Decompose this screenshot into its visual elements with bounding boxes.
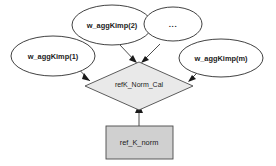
node-input-m[interactable]: w_aggKimp(m) [179,39,263,77]
arrowhead-inputm [188,75,196,82]
arrowhead-ellipsis [141,56,149,63]
diagram-svg: w_aggKimp(2) ... w_aggKimp(1) w_aggKimp(… [0,0,276,166]
node-label-input-ellipsis: ... [169,20,177,29]
edge-ellipsis-to-process [141,44,160,63]
node-label-input-2: w_aggKimp(2) [86,21,138,30]
node-process[interactable]: refK_Norm_Cal [85,62,193,110]
node-label-input-m: w_aggKimp(m) [194,54,249,63]
node-input-2[interactable]: w_aggKimp(2) [72,5,152,45]
node-label-output: ref_K_norm [120,138,159,147]
node-input-ellipsis[interactable]: ... [144,7,202,41]
node-input-1[interactable]: w_aggKimp(1) [11,36,95,76]
edge-input2-to-process [120,45,137,63]
node-label-input-1: w_aggKimp(1) [27,52,79,61]
diagram-canvas: w_aggKimp(2) ... w_aggKimp(1) w_aggKimp(… [0,0,276,166]
node-label-process: refK_Norm_Cal [115,81,164,89]
node-output[interactable]: ref_K_norm [106,126,173,159]
